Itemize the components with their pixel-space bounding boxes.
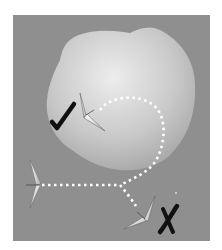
flight-path-branch <box>120 185 136 206</box>
cross-mark-icon <box>160 206 177 232</box>
speck <box>175 192 177 194</box>
diagram-canvas <box>0 0 222 250</box>
glider-start-icon <box>26 160 41 208</box>
glider-exit-icon <box>124 196 155 229</box>
